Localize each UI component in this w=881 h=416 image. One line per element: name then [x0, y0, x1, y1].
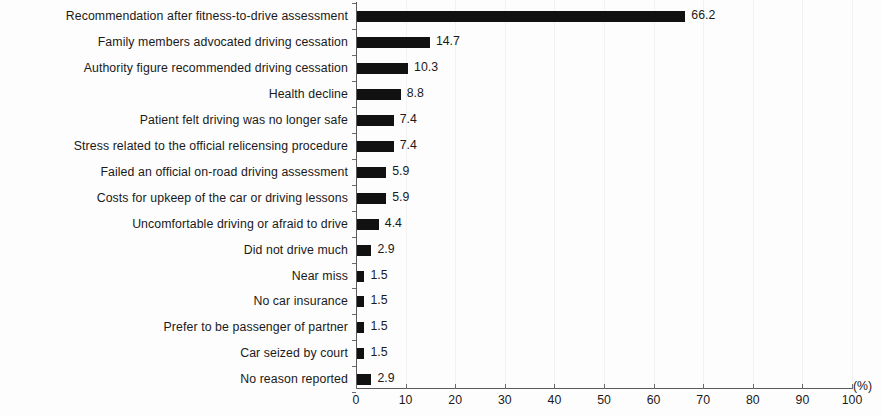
bar: [357, 193, 386, 204]
x-axis-tick: [753, 384, 754, 389]
gridline: [455, 0, 456, 388]
x-axis-tick-label: 90: [782, 393, 822, 407]
bar-value-label: 66.2: [691, 10, 715, 21]
bar: [357, 219, 379, 230]
gridline: [604, 0, 605, 388]
x-axis-tick: [356, 384, 357, 389]
gridline: [505, 0, 506, 388]
bar: [357, 167, 386, 178]
bar-value-label: 14.7: [436, 36, 460, 47]
category-label: Recommendation after fitness-to-drive as…: [66, 10, 348, 22]
bar: [357, 322, 364, 333]
bar: [357, 245, 371, 256]
category-label: Stress related to the official relicensi…: [74, 140, 348, 152]
bar-value-label: 5.9: [392, 192, 409, 203]
bar: [357, 115, 394, 126]
bar-value-label: 7.4: [400, 140, 417, 151]
y-axis-tick: [352, 185, 356, 186]
x-axis-tick-label: 100: [832, 393, 872, 407]
plot-area: 66.214.710.38.87.47.45.95.94.42.91.51.51…: [356, 0, 852, 388]
x-axis-unit-label: (%): [853, 379, 872, 393]
bar-value-label: 2.9: [377, 244, 394, 255]
y-axis-tick: [352, 340, 356, 341]
y-axis-tick: [352, 263, 356, 264]
x-axis-tick-label: 60: [634, 393, 674, 407]
y-axis-tick: [352, 3, 356, 4]
bar-value-label: 1.5: [370, 270, 387, 281]
category-label: Health decline: [269, 88, 348, 100]
x-axis-tick-label: 70: [683, 393, 723, 407]
x-axis-tick: [554, 384, 555, 389]
category-label: Prefer to be passenger of partner: [164, 321, 348, 333]
y-axis-tick: [352, 133, 356, 134]
bar: [357, 348, 364, 359]
bar-value-label: 8.8: [407, 88, 424, 99]
gridline: [654, 0, 655, 388]
category-label: Family members advocated driving cessati…: [98, 36, 348, 48]
y-axis-tick: [352, 314, 356, 315]
gridline: [554, 0, 555, 388]
y-axis-tick: [352, 29, 356, 30]
gridline: [753, 0, 754, 388]
bar: [357, 271, 364, 282]
bar-value-label: 1.5: [370, 347, 387, 358]
category-label: Failed an official on-road driving asses…: [100, 166, 348, 178]
bar-value-label: 2.9: [377, 373, 394, 384]
bar: [357, 374, 371, 385]
bar-chart: Recommendation after fitness-to-drive as…: [0, 0, 881, 416]
x-axis-tick-label: 40: [534, 393, 574, 407]
category-label: Costs for upkeep of the car or driving l…: [97, 192, 348, 204]
x-axis-tick-label: 0: [336, 393, 376, 407]
x-axis-tick-label: 50: [584, 393, 624, 407]
category-label: Car seized by court: [240, 347, 348, 359]
gridline: [703, 0, 704, 388]
bar-value-label: 7.4: [400, 114, 417, 125]
bar-value-label: 10.3: [414, 62, 438, 73]
y-axis-tick: [352, 55, 356, 56]
bar-value-label: 5.9: [392, 166, 409, 177]
x-axis-tick: [654, 384, 655, 389]
y-axis-tick: [352, 107, 356, 108]
x-axis-tick: [455, 384, 456, 389]
x-axis-tick: [406, 384, 407, 389]
x-axis-tick-label: 30: [485, 393, 525, 407]
x-axis-tick-label: 10: [386, 393, 426, 407]
y-axis-line: [356, 2, 357, 389]
bar-value-label: 4.4: [385, 218, 402, 229]
bar: [357, 63, 408, 74]
category-label: Authority figure recommended driving ces…: [84, 62, 348, 74]
gridline: [852, 0, 853, 388]
gridline: [802, 0, 803, 388]
y-axis-tick: [352, 288, 356, 289]
x-axis-tick: [505, 384, 506, 389]
x-axis-tick: [703, 384, 704, 389]
category-label: No car insurance: [253, 295, 348, 307]
bar: [357, 296, 364, 307]
y-axis-tick: [352, 81, 356, 82]
category-label: Near miss: [292, 270, 348, 282]
y-axis-tick: [352, 366, 356, 367]
bar-value-label: 1.5: [370, 295, 387, 306]
y-axis-tick: [352, 159, 356, 160]
category-label: Uncomfortable driving or afraid to drive: [132, 218, 348, 230]
category-label: Patient felt driving was no longer safe: [140, 114, 348, 126]
bar: [357, 89, 401, 100]
y-axis-tick: [352, 211, 356, 212]
category-label: Did not drive much: [244, 244, 348, 256]
bar: [357, 37, 430, 48]
y-axis-tick: [352, 237, 356, 238]
bar-value-label: 1.5: [370, 321, 387, 332]
x-axis-tick-label: 20: [435, 393, 475, 407]
x-axis-tick: [802, 384, 803, 389]
category-label: No reason reported: [240, 373, 348, 385]
bar: [357, 141, 394, 152]
x-axis-tick-label: 80: [733, 393, 773, 407]
x-axis-tick: [604, 384, 605, 389]
bar: [357, 11, 685, 22]
